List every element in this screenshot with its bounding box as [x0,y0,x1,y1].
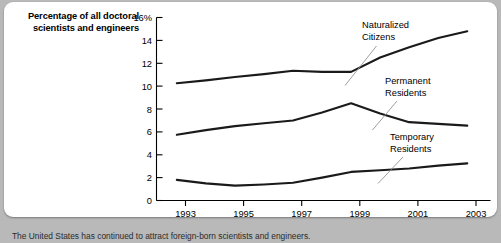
y-axis-ticks [157,18,163,201]
annotation-naturalized-citizens-line-2: Citizens [362,32,395,42]
x-axis-labels: 1993 1995 1997 1999 2001 2003 [175,209,486,219]
y-tick-label-4: 4 [147,150,152,160]
y-tick-label-10: 10 [142,82,152,92]
series-line-permanent-residents [177,103,467,134]
x-tick-label-1999: 1999 [349,209,370,219]
leader-line-naturalized-citizens [345,46,377,86]
x-tick-label-1995: 1995 [233,209,254,219]
line-chart-figure: Percentage of all doctoral scientists an… [0,0,501,243]
annotation-permanent-residents: Permanent Residents [385,76,431,98]
annotation-temporary-residents-line-1: Temporary [390,132,434,142]
annotation-permanent-residents-line-1: Permanent [385,76,431,86]
y-tick-label-0: 0 [147,196,152,206]
y-tick-label-12: 12 [142,59,152,69]
x-tick-label-2003: 2003 [466,209,487,219]
x-tick-label-1993: 1993 [175,209,196,219]
y-tick-label-6: 6 [147,127,152,137]
y-tick-label-16: 16% [133,13,152,23]
y-tick-label-2: 2 [147,173,152,183]
x-axis-ticks [186,201,477,207]
x-tick-label-2001: 2001 [408,209,429,219]
annotation-naturalized-citizens-line-1: Naturalized [362,20,409,30]
annotation-naturalized-citizens: Naturalized Citizens [362,20,409,42]
y-tick-label-8: 8 [147,105,152,115]
y-axis-labels: 16% 14 12 10 8 6 4 2 0 [133,13,152,206]
chart-plot-area: 16% 14 12 10 8 6 4 2 0 1993 1995 1997 19… [0,0,501,243]
y-tick-label-14: 14 [142,36,152,46]
annotation-temporary-residents-line-2: Residents [390,144,432,154]
series-line-temporary-residents [177,163,467,185]
annotation-temporary-residents: Temporary Residents [390,132,434,154]
leader-line-permanent-residents [373,101,398,130]
x-tick-label-1997: 1997 [291,209,312,219]
annotation-permanent-residents-line-2: Residents [385,88,427,98]
figure-caption: The United States has continued to attra… [12,231,482,241]
